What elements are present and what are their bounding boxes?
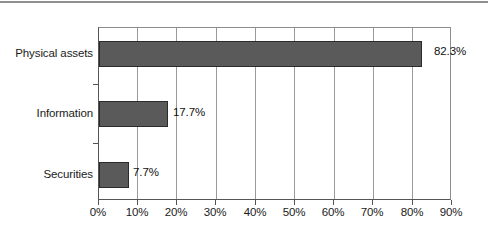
bar-value-securities: 7.7% [133, 166, 159, 178]
x-axis-tick-60 [333, 200, 334, 205]
x-axis-tick-10 [137, 200, 138, 205]
category-label-physical-assets: Physical assets [15, 47, 93, 59]
bar-securities [99, 162, 129, 188]
bar-value-information: 17.7% [173, 106, 205, 118]
bar-value-physical-assets: 82.3% [434, 45, 466, 57]
bar-physical-assets [99, 41, 422, 67]
x-axis-tick-40 [255, 200, 256, 205]
bar-information [99, 101, 168, 127]
x-axis-tick-70 [372, 200, 373, 205]
top-divider-rule [0, 1, 488, 3]
x-axis-tick-0 [98, 200, 99, 205]
category-label-information: Information [37, 107, 93, 119]
x-axis-tick-20 [176, 200, 177, 205]
x-axis-label-90: 90% [428, 206, 474, 218]
chart-page: Physical assets Information Securities 8… [0, 0, 488, 243]
x-axis-tick-90 [451, 200, 452, 205]
x-axis-tick-30 [215, 200, 216, 205]
x-axis-tick-50 [294, 200, 295, 205]
x-axis-tick-80 [412, 200, 413, 205]
category-label-securities: Securities [44, 168, 94, 180]
